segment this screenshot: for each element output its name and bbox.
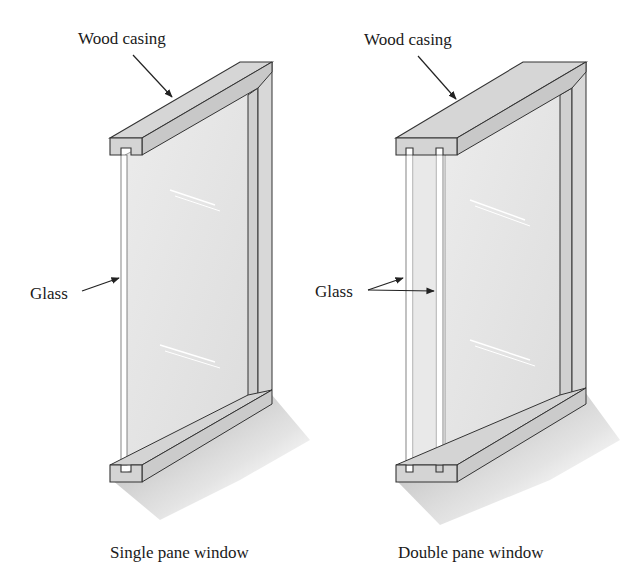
single-pane-window: Wood casing Glass Single pane window (30, 29, 310, 562)
glass-label-double: Glass (315, 282, 353, 301)
wood-casing-arrow-single (133, 55, 172, 97)
wood-casing-label-double: Wood casing (364, 30, 452, 49)
glass-arrow-double-outer (368, 278, 403, 290)
wood-casing-label-single: Wood casing (78, 29, 166, 48)
glass-label-single: Glass (30, 284, 68, 303)
double-pane-window: Wood casing Glass Double pane window (315, 30, 620, 562)
glass-arrow-single (82, 278, 119, 291)
caption-single: Single pane window (110, 543, 250, 562)
window-diagram: Wood casing Glass Single pane window (0, 0, 629, 562)
caption-double: Double pane window (398, 543, 544, 562)
glass-edge-inner (436, 155, 443, 465)
wood-casing-arrow-double (418, 56, 456, 99)
glass-edge-outer (406, 155, 413, 465)
glass-edge (121, 155, 127, 465)
right-casing (560, 88, 572, 402)
right-casing (248, 88, 258, 402)
